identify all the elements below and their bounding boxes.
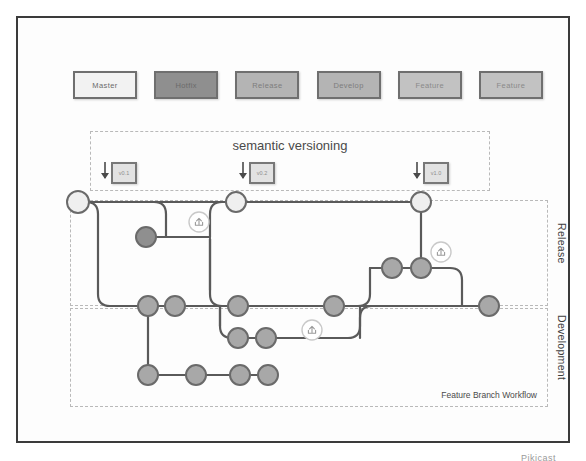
legend-label-feature-1: Feature: [415, 81, 444, 90]
legend-label-develop: Develop: [333, 81, 363, 90]
legend-item-release: Release: [235, 71, 299, 99]
semantic-versioning-title: semantic versioning: [91, 138, 489, 153]
legend-label-feature-2: Feature: [497, 81, 526, 90]
watermark: Pikicast: [521, 453, 556, 461]
legend-item-feature-2: Feature: [479, 71, 543, 99]
version-tag-label-v10: v1.0: [431, 170, 441, 176]
version-tag-v02: v0.2: [249, 162, 275, 184]
legend-label-hotfix: Hotfix: [175, 81, 197, 90]
diagram-frame: Master Hotfix Release Develop Feature Fe…: [16, 16, 570, 443]
version-tag-v01: v0.1: [111, 162, 137, 184]
lane-label-release: Release: [556, 223, 568, 264]
legend-label-release: Release: [252, 81, 282, 90]
version-tag-v10: v1.0: [423, 162, 449, 184]
legend-item-master: Master: [73, 71, 137, 99]
diagram-canvas: Master Hotfix Release Develop Feature Fe…: [0, 0, 586, 461]
version-tag-label-v02: v0.2: [257, 170, 267, 176]
legend-label-master: Master: [92, 81, 117, 90]
lane-label-development: Development: [556, 315, 568, 380]
legend-item-hotfix: Hotfix: [154, 71, 218, 99]
lane-development: Feature Branch Workflow: [70, 308, 548, 407]
lane-release: [70, 200, 548, 306]
semantic-versioning-band: semantic versioning v0.1 v0.2 v1.0: [90, 131, 490, 191]
version-tag-label-v01: v0.1: [119, 170, 129, 176]
workflow-caption: Feature Branch Workflow: [441, 390, 537, 400]
legend-item-feature-1: Feature: [398, 71, 462, 99]
legend-item-develop: Develop: [317, 71, 381, 99]
branch-type-legend: Master Hotfix Release Develop Feature Fe…: [73, 62, 543, 108]
